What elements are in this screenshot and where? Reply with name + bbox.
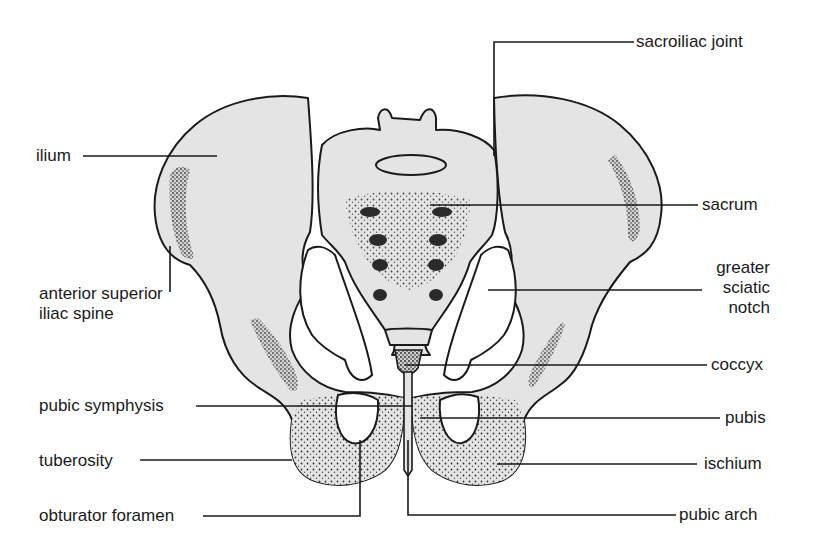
label-coccyx: coccyx: [711, 355, 763, 375]
label-line-3: notch: [700, 298, 770, 318]
label-pubis: pubis: [725, 408, 766, 428]
label-sacroiliac-joint: sacroiliac joint: [636, 32, 743, 52]
label-tuberosity: tuberosity: [39, 451, 113, 471]
label-ilium: ilium: [36, 146, 71, 166]
label-pubic-arch: pubic arch: [679, 505, 757, 525]
label-sacrum: sacrum: [702, 195, 758, 215]
label-line-2: iliac spine: [39, 304, 163, 324]
label-line-1: anterior superior: [39, 284, 163, 304]
label-line-2: sciatic: [700, 278, 770, 298]
label-ischium: ischium: [704, 454, 762, 474]
label-obturator-foramen: obturator foramen: [39, 506, 174, 526]
pelvis-illustration: [0, 0, 814, 550]
label-greater-sciatic-notch: greater sciatic notch: [700, 258, 770, 318]
label-line-1: greater: [700, 258, 770, 278]
label-anterior-superior-iliac-spine: anterior superior iliac spine: [39, 284, 163, 324]
label-pubic-symphysis: pubic symphysis: [39, 396, 164, 416]
